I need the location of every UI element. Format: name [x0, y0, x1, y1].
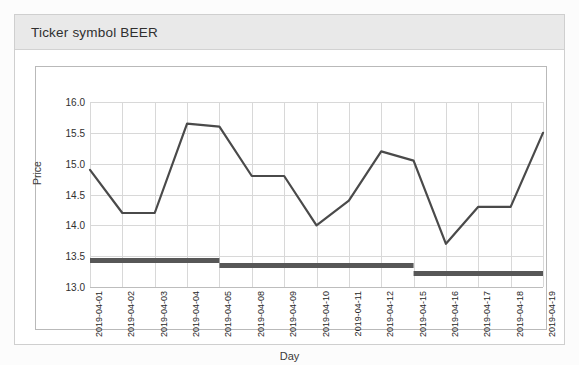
y-tick-label: 13.5 [66, 251, 85, 262]
x-tick-label: 2019-04-17 [482, 291, 492, 337]
price-line [90, 124, 543, 244]
plot-area [90, 102, 543, 287]
x-tick-label: 2019-04-01 [94, 291, 104, 337]
y-tick-label: 14.0 [66, 220, 85, 231]
x-axis-tick-labels: 2019-04-012019-04-022019-04-032019-04-04… [90, 291, 543, 349]
x-tick-label: 2019-04-10 [321, 291, 331, 337]
x-tick-label: 2019-04-12 [385, 291, 395, 337]
series-layer [90, 102, 543, 287]
x-tick-label: 2019-04-11 [353, 291, 363, 336]
x-tick-label: 2019-04-05 [223, 291, 233, 337]
chart-title: Ticker symbol BEER [31, 25, 158, 40]
x-tick-label: 2019-04-18 [515, 291, 525, 337]
x-tick-label: 2019-04-19 [547, 291, 557, 337]
chart-card-header: Ticker symbol BEER [15, 15, 564, 50]
gridline-vertical [543, 102, 544, 287]
chart-card: Ticker symbol BEER Price Day 13.013.514.… [14, 14, 565, 345]
y-tick-label: 16.0 [66, 97, 85, 108]
y-tick-label: 13.0 [66, 282, 85, 293]
y-tick-label: 14.5 [66, 189, 85, 200]
x-tick-label: 2019-04-15 [418, 291, 428, 337]
gridline-horizontal [90, 287, 543, 288]
x-tick-label: 2019-04-09 [288, 291, 298, 337]
plot-wrapper: Price Day 13.013.514.014.515.015.516.0 2… [15, 50, 564, 344]
y-axis-tick-labels: 13.013.514.014.515.015.516.0 [43, 102, 85, 287]
x-tick-label: 2019-04-08 [256, 291, 266, 337]
y-tick-label: 15.5 [66, 127, 85, 138]
y-tick-label: 15.0 [66, 158, 85, 169]
x-tick-label: 2019-04-02 [126, 291, 136, 337]
x-tick-label: 2019-04-04 [191, 291, 201, 337]
y-axis-title: Price [31, 161, 43, 185]
x-axis-title: Day [15, 350, 564, 362]
x-tick-label: 2019-04-03 [159, 291, 169, 337]
x-tick-label: 2019-04-16 [450, 291, 460, 337]
